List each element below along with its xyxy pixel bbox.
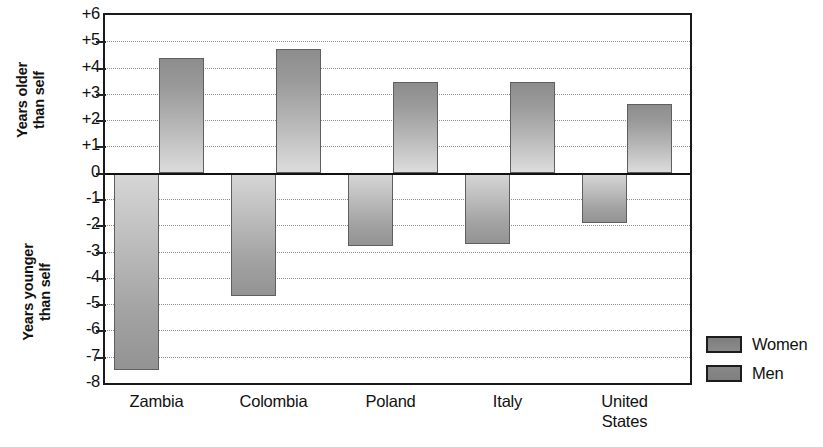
y-axis-tick (96, 146, 106, 148)
bar-men-colombia (231, 173, 276, 297)
gridline (105, 357, 690, 358)
bar-women-united-states (627, 104, 672, 172)
y-axis-tick (96, 304, 106, 306)
y-tick-label: +3 (82, 84, 100, 100)
x-axis-category-labels: ZambiaColombiaPolandItalyUnited States (103, 391, 692, 447)
legend-swatch-men (706, 365, 742, 382)
bar-women-colombia (276, 49, 321, 173)
bar-women-poland (393, 82, 438, 173)
x-category-label: Zambia (98, 391, 215, 411)
y-axis-tick-labels: +6+5+4+3+2+10-1-2-3-4-5-6-7-8 (58, 0, 100, 447)
y-axis-tick (96, 252, 106, 254)
gridline (105, 225, 690, 226)
legend: Women Men (706, 330, 816, 388)
y-tick-label: -3 (86, 242, 100, 258)
y-tick-label: -4 (86, 268, 100, 284)
y-axis-label-lower: Years younger than self (20, 207, 60, 377)
y-tick-label: +2 (82, 110, 100, 126)
legend-label-men: Men (752, 364, 784, 383)
x-category-label: Italy (449, 391, 566, 411)
y-tick-label: -1 (86, 189, 100, 205)
y-tick-label: -2 (86, 215, 100, 231)
legend-item-men[interactable]: Men (706, 359, 816, 388)
y-axis-label-upper: Years older than self (14, 30, 54, 170)
gridline (105, 41, 690, 42)
y-axis-tick (96, 278, 106, 280)
y-tick-label: +5 (82, 31, 100, 47)
x-category-label: United States (566, 391, 683, 431)
y-tick-label: 0 (91, 163, 100, 179)
y-axis-tick (96, 357, 106, 359)
y-axis-tick (96, 330, 106, 332)
y-axis-tick (96, 68, 106, 70)
y-tick-label: +4 (82, 58, 100, 74)
x-category-label: Colombia (215, 391, 332, 411)
legend-label-women: Women (752, 335, 808, 354)
y-tick-label: -7 (86, 347, 100, 363)
y-axis-tick (96, 120, 106, 122)
gridline (105, 278, 690, 279)
y-tick-label: -8 (86, 373, 100, 389)
legend-swatch-women (706, 336, 742, 353)
y-axis-tick (96, 41, 106, 43)
y-tick-label: +1 (82, 136, 100, 152)
gridline (105, 252, 690, 253)
zero-axis-line (105, 173, 690, 175)
bar-men-united-states (582, 173, 627, 223)
bar-women-zambia (159, 58, 204, 172)
gridline (105, 304, 690, 305)
y-tick-label: -6 (86, 320, 100, 336)
y-tick-label: +6 (82, 5, 100, 21)
y-axis-tick (96, 94, 106, 96)
plot-area (103, 13, 692, 385)
gridline (105, 330, 690, 331)
x-category-label: Poland (332, 391, 449, 411)
bar-men-italy (465, 173, 510, 244)
legend-item-women[interactable]: Women (706, 330, 816, 359)
bar-women-italy (510, 82, 555, 173)
bar-men-poland (348, 173, 393, 247)
y-tick-label: -5 (86, 294, 100, 310)
bar-men-zambia (114, 173, 159, 370)
y-axis-tick (96, 199, 106, 201)
y-axis-tick (96, 225, 106, 227)
